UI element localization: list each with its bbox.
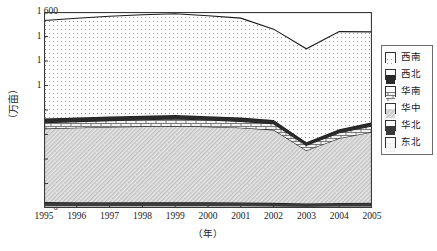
legend-item-西北[interactable]: 西北 [385,66,430,83]
legend-label: 华北 [401,120,421,131]
legend-item-华中[interactable]: 华中 [385,100,430,117]
legend-label: 西北 [401,69,421,80]
legend-swatch-icon [385,52,396,63]
legend-swatch-icon [385,86,396,97]
legend-item-华南[interactable]: 华南 [385,83,430,100]
legend-label: 东北 [401,137,421,148]
legend-item-华北[interactable]: 华北 [385,117,430,134]
chart-figure: （万亩） 02004006008001 0001 2001 4001 600 1… [0,0,437,251]
legend-item-西南[interactable]: 西南 [385,49,430,66]
legend: 西南西北华南华中华北东北 [381,45,433,155]
x-axis-title: （年） [44,226,372,240]
legend-label: 华中 [401,103,421,114]
legend-label: 华南 [401,86,421,97]
legend-swatch-icon [385,69,396,80]
legend-swatch-icon [385,120,396,131]
plot-area [44,12,372,208]
stacked-area-plot [44,12,372,208]
legend-item-东北[interactable]: 东北 [385,134,430,151]
legend-swatch-icon [385,103,396,114]
legend-label: 西南 [401,52,421,63]
x-axis-tick-label: 2005 [352,211,392,221]
legend-swatch-icon [385,137,396,148]
